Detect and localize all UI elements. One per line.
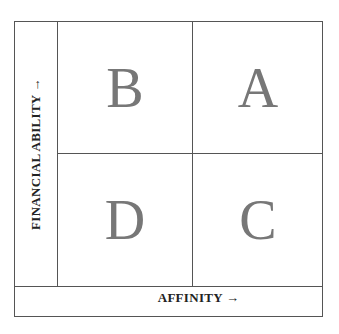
quadrant-bottom-right: C [193,154,323,286]
quadrant-letter-a: A [238,60,278,116]
x-axis-band: AFFINITY → [15,286,322,316]
x-axis-label: AFFINITY → [15,290,322,306]
quadrant-letter-b: B [106,60,143,116]
y-axis-label: FINANCIAL ABILITY → [28,78,44,230]
quadrant-bottom-left: D [58,154,193,286]
quadrant-letter-d: D [105,192,145,248]
quadrant-top-right: A [193,22,323,154]
quadrant-letter-c: C [239,192,276,248]
quadrant-top-left: B [58,22,193,154]
matrix-frame: FINANCIAL ABILITY → B A D C AFFINITY → [14,21,323,317]
quadrant-grid: B A D C [58,22,323,286]
y-axis-band: FINANCIAL ABILITY → [15,22,58,286]
